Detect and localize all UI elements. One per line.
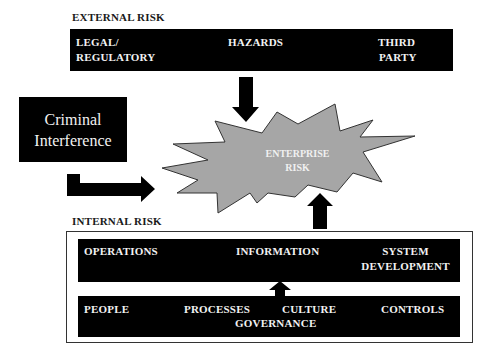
bent-arrow-right-icon bbox=[67, 174, 155, 202]
external-risk-heading: EXTERNAL RISK bbox=[72, 11, 165, 23]
arrow-down-icon bbox=[232, 77, 259, 122]
internal-item-people: PEOPLE bbox=[84, 302, 129, 317]
internal-item-culture: CULTURE bbox=[282, 302, 336, 317]
internal-risk-heading: INTERNAL RISK bbox=[72, 215, 162, 227]
criminal-interference-box: Criminal Interference bbox=[19, 97, 127, 162]
internal-item-governance: GOVERNANCE bbox=[235, 316, 316, 331]
external-item-legal: LEGAL/ REGULATORY bbox=[76, 35, 155, 65]
internal-bottom-bar: PEOPLE PROCESSES CULTURE CONTROLS GOVERN… bbox=[78, 296, 460, 337]
internal-item-system-development: SYSTEM DEVELOPMENT bbox=[353, 244, 458, 274]
internal-top-bar: OPERATIONS INFORMATION SYSTEM DEVELOPMEN… bbox=[78, 239, 460, 282]
internal-item-information: INFORMATION bbox=[236, 244, 319, 259]
external-risk-bar: LEGAL/ REGULATORY HAZARDS THIRD PARTY bbox=[70, 29, 453, 71]
external-item-third-party: THIRD PARTY bbox=[378, 35, 417, 65]
internal-item-controls: CONTROLS bbox=[381, 302, 444, 317]
external-item-hazards: HAZARDS bbox=[228, 35, 283, 50]
internal-item-operations: OPERATIONS bbox=[84, 244, 158, 259]
enterprise-risk-label: ENTERPRISE RISK bbox=[250, 147, 345, 175]
arrow-up-icon bbox=[307, 193, 333, 229]
internal-item-processes: PROCESSES bbox=[184, 302, 250, 317]
